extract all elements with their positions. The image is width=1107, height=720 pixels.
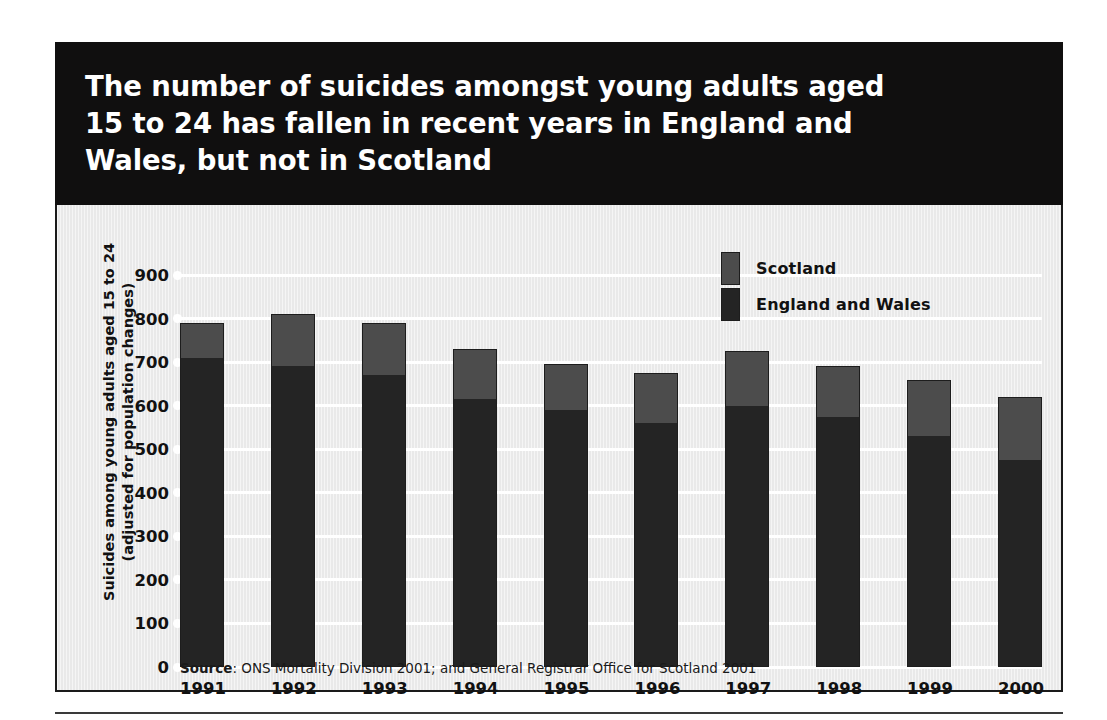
x-tick-label: 1992: [271, 679, 315, 698]
x-tick-label: 1996: [634, 679, 678, 698]
legend-item-scotland: Scotland: [721, 250, 931, 286]
x-tick-label: 1991: [180, 679, 224, 698]
bar-group[interactable]: 2000: [998, 397, 1042, 667]
bar-segment-scotland[interactable]: [907, 380, 951, 437]
bar-group[interactable]: 1998: [816, 366, 860, 667]
bar-segment-england-and-wales[interactable]: [634, 423, 678, 667]
x-tick-label: 2000: [998, 679, 1042, 698]
bar-group[interactable]: 1994: [453, 349, 497, 667]
legend-swatch-scotland: [721, 252, 740, 285]
x-tick-label: 1993: [362, 679, 406, 698]
bar-segment-scotland[interactable]: [453, 349, 497, 399]
bar-group[interactable]: 1995: [544, 364, 588, 667]
source-note: Source: ONS Mortality Division 2001; and…: [180, 660, 756, 676]
x-tick-label: 1998: [816, 679, 860, 698]
bottom-divider: [55, 712, 1063, 714]
legend-label-england-and-wales: England and Wales: [756, 295, 931, 314]
y-tick-label: 0: [158, 658, 169, 677]
y-tick-label: 600: [135, 396, 169, 415]
y-tick-marker: [173, 314, 182, 323]
bar-segment-england-and-wales[interactable]: [180, 358, 224, 667]
source-text: : ONS Mortality Division 2001; and Gener…: [232, 660, 756, 676]
bar-segment-england-and-wales[interactable]: [362, 375, 406, 667]
y-axis-title: Suicides among young adults aged 15 to 2…: [100, 212, 138, 632]
y-tick-label: 800: [135, 309, 169, 328]
x-tick-label: 1997: [725, 679, 769, 698]
bar-group[interactable]: 1993: [362, 323, 406, 667]
page-title: The number of suicides amongst young adu…: [85, 68, 1033, 179]
x-tick-label: 1994: [453, 679, 497, 698]
chart-legend: Scotland England and Wales: [721, 250, 931, 322]
source-label: Source: [180, 660, 232, 676]
legend-item-england-and-wales: England and Wales: [721, 286, 931, 322]
bar-group[interactable]: 1999: [907, 380, 951, 667]
y-tick-label: 300: [135, 527, 169, 546]
bar-segment-england-and-wales[interactable]: [998, 460, 1042, 667]
bar-segment-england-and-wales[interactable]: [907, 436, 951, 667]
bar-segment-scotland[interactable]: [271, 314, 315, 366]
bar-segment-england-and-wales[interactable]: [271, 366, 315, 667]
bar-segment-scotland[interactable]: [725, 351, 769, 405]
bar-segment-scotland[interactable]: [180, 323, 224, 358]
legend-swatch-england-and-wales: [721, 288, 740, 321]
x-tick-label: 1995: [544, 679, 588, 698]
plot-area: 0100200300400500600700800900 19911992199…: [180, 275, 1042, 667]
y-tick-label: 100: [135, 614, 169, 633]
bar-segment-scotland[interactable]: [544, 364, 588, 410]
y-tick-label: 500: [135, 440, 169, 459]
bar-segment-scotland[interactable]: [998, 397, 1042, 460]
bar-group[interactable]: 1997: [725, 351, 769, 667]
bar-segment-england-and-wales[interactable]: [816, 417, 860, 667]
bar-segment-scotland[interactable]: [362, 323, 406, 375]
bar-group[interactable]: 1996: [634, 373, 678, 667]
title-banner: The number of suicides amongst young adu…: [55, 42, 1063, 205]
legend-label-scotland: Scotland: [756, 259, 836, 278]
y-tick-label: 200: [135, 570, 169, 589]
bar-segment-scotland[interactable]: [816, 366, 860, 416]
x-tick-label: 1999: [907, 679, 951, 698]
y-tick-label: 400: [135, 483, 169, 502]
y-tick-label: 900: [135, 266, 169, 285]
chart-panel: Suicides among young adults aged 15 to 2…: [55, 205, 1063, 692]
bar-segment-england-and-wales[interactable]: [544, 410, 588, 667]
bar-group[interactable]: 1992: [271, 314, 315, 667]
y-tick-label: 700: [135, 353, 169, 372]
bar-segment-england-and-wales[interactable]: [725, 406, 769, 667]
bar-segment-england-and-wales[interactable]: [453, 399, 497, 667]
bar-segment-scotland[interactable]: [634, 373, 678, 423]
bar-group[interactable]: 1991: [180, 323, 224, 667]
y-tick-marker: [173, 271, 182, 280]
figure-container: The number of suicides amongst young adu…: [55, 42, 1063, 692]
